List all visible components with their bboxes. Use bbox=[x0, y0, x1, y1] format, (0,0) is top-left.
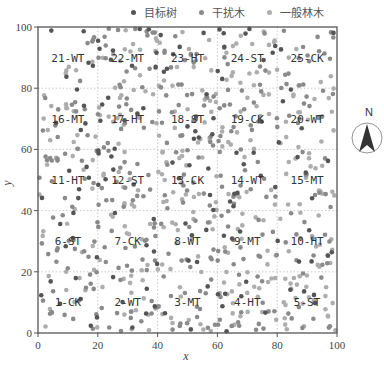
tree-point bbox=[320, 164, 325, 169]
tree-point bbox=[100, 285, 105, 290]
tree-point bbox=[222, 55, 227, 60]
tree-point bbox=[96, 112, 101, 117]
tree-point bbox=[56, 107, 61, 112]
tree-point bbox=[270, 50, 275, 55]
tree-point bbox=[224, 77, 229, 82]
tree-point bbox=[115, 311, 120, 316]
tree-point bbox=[81, 29, 86, 34]
tree-point bbox=[328, 205, 333, 210]
plot-cell-label: 7-CK bbox=[114, 235, 141, 248]
tree-point bbox=[330, 301, 335, 306]
tree-point bbox=[254, 70, 259, 75]
tree-point bbox=[316, 213, 321, 218]
tree-point bbox=[90, 244, 95, 249]
tree-point bbox=[156, 267, 161, 272]
tree-point bbox=[237, 282, 242, 287]
tree-point bbox=[193, 218, 198, 223]
tree-point bbox=[159, 85, 164, 90]
tree-point bbox=[118, 96, 123, 101]
tree-point bbox=[145, 33, 150, 38]
tree-point bbox=[264, 195, 269, 200]
tree-point bbox=[239, 310, 244, 315]
tree-point bbox=[211, 116, 216, 121]
tree-point bbox=[101, 172, 106, 177]
tree-point bbox=[260, 301, 265, 306]
tree-point bbox=[40, 241, 45, 246]
tree-point bbox=[86, 254, 91, 259]
tree-point bbox=[301, 271, 306, 276]
tree-point bbox=[267, 43, 272, 48]
tree-point bbox=[49, 28, 54, 33]
tree-point bbox=[220, 185, 225, 190]
tree-point bbox=[54, 259, 59, 264]
tree-point bbox=[326, 159, 331, 164]
tree-point bbox=[234, 41, 239, 46]
tree-point bbox=[95, 325, 100, 330]
tree-point bbox=[122, 312, 127, 317]
tree-point bbox=[106, 148, 111, 153]
tree-point bbox=[256, 253, 261, 258]
tree-point bbox=[286, 202, 291, 207]
tree-point bbox=[205, 284, 210, 289]
tree-point bbox=[185, 107, 190, 112]
tree-point bbox=[240, 88, 245, 93]
tree-point bbox=[331, 92, 336, 97]
tree-point bbox=[75, 133, 80, 138]
plot-cell-label: 24-ST bbox=[231, 52, 264, 65]
tree-point bbox=[113, 85, 118, 90]
tree-point bbox=[287, 249, 292, 254]
tree-point bbox=[323, 307, 328, 312]
tree-point bbox=[102, 145, 107, 150]
tree-point bbox=[214, 100, 219, 105]
tree-point bbox=[198, 289, 203, 294]
tree-point bbox=[117, 83, 122, 88]
tree-point bbox=[123, 224, 128, 229]
tree-point bbox=[118, 165, 123, 170]
tree-point bbox=[85, 41, 90, 46]
x-axis-title: x bbox=[182, 349, 189, 363]
tree-point bbox=[326, 314, 331, 319]
tree-point bbox=[217, 106, 222, 111]
tree-point bbox=[307, 151, 312, 156]
tree-point bbox=[259, 89, 264, 94]
tree-point bbox=[55, 157, 60, 162]
tree-point bbox=[211, 94, 216, 99]
tree-point bbox=[255, 160, 260, 165]
tree-point bbox=[103, 43, 108, 48]
tree-point bbox=[228, 102, 233, 107]
tree-point bbox=[208, 193, 213, 198]
tree-point bbox=[94, 270, 99, 275]
tree-point bbox=[96, 151, 101, 156]
tree-point bbox=[310, 196, 315, 201]
tree-point bbox=[265, 249, 270, 254]
tree-point bbox=[327, 239, 332, 244]
tree-point bbox=[286, 311, 291, 316]
plot-cell-label: 13-CK bbox=[171, 174, 204, 187]
plot-cell-label: 21-WT bbox=[51, 52, 84, 65]
tree-point bbox=[284, 82, 289, 87]
tree-point bbox=[141, 106, 146, 111]
tree-point bbox=[148, 222, 153, 227]
tree-point bbox=[226, 88, 231, 93]
x-tick-label: 100 bbox=[329, 339, 346, 351]
tree-point bbox=[140, 257, 145, 262]
tree-point bbox=[46, 128, 51, 133]
tree-point bbox=[141, 296, 146, 301]
tree-point bbox=[282, 316, 287, 321]
tree-point bbox=[209, 68, 214, 73]
tree-point bbox=[224, 270, 229, 275]
tree-point bbox=[160, 262, 165, 267]
tree-point bbox=[243, 31, 248, 36]
tree-point bbox=[178, 285, 183, 290]
tree-point bbox=[155, 262, 160, 267]
tree-point bbox=[86, 61, 91, 66]
tree-point bbox=[235, 130, 240, 135]
tree-point bbox=[283, 276, 288, 281]
tree-point bbox=[245, 291, 250, 296]
plot-cell-label: 12-ST bbox=[111, 174, 144, 187]
tree-point bbox=[98, 119, 103, 124]
tree-point bbox=[220, 77, 225, 82]
tree-point bbox=[92, 239, 97, 244]
tree-point bbox=[96, 56, 101, 61]
tree-point bbox=[229, 74, 234, 79]
